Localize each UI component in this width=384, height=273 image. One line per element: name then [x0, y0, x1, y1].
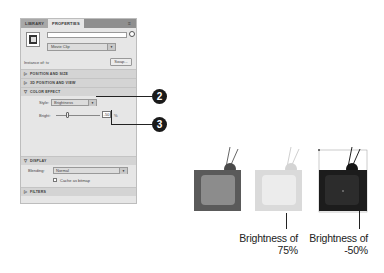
instance-of-label: Instance of: tv: [24, 60, 49, 65]
brightness-slider-track[interactable]: [56, 115, 100, 116]
instance-header: Movie Clip ▼: [21, 28, 136, 58]
callout-3-line-vertical: [111, 110, 112, 124]
blending-select[interactable]: Normal ▼: [53, 167, 128, 174]
chevron-down-icon: ▼: [107, 44, 115, 50]
tab-properties[interactable]: PROPERTIES: [48, 19, 84, 28]
percent-unit: %: [114, 113, 118, 118]
symbol-type-value: Movie Clip: [51, 44, 70, 49]
color-effect-body: Style: Brightness ▼ Bright: -50 %: [21, 96, 136, 156]
style-select[interactable]: Brightness ▼: [51, 99, 97, 106]
callout-2-line: [96, 96, 152, 97]
edit-symbol-icon[interactable]: [129, 31, 135, 37]
blending-value: Normal: [56, 168, 69, 173]
section-color-effect[interactable]: ▽COLOR EFFECT: [21, 87, 136, 96]
instance-of-row: Instance of: tv Swap...: [21, 58, 136, 69]
section-position-size[interactable]: ▷POSITION AND SIZE: [21, 69, 136, 78]
swap-button[interactable]: Swap...: [110, 58, 132, 66]
tv-brightness-minus-50-image: [314, 145, 374, 215]
style-label: Style:: [39, 100, 49, 105]
properties-panel: LIBRARY PROPERTIES ≡ Movie Clip ▼ Instan…: [20, 18, 137, 204]
instance-name-input[interactable]: [47, 32, 127, 38]
caption-line-2: -50%: [296, 244, 368, 256]
brightness-value-input[interactable]: -50: [102, 111, 111, 118]
chevron-down-icon: ▼: [119, 168, 127, 174]
brightness-slider-thumb[interactable]: [66, 112, 69, 118]
section-3d-position-view[interactable]: ▷3D POSITION AND VIEW: [21, 78, 136, 87]
cache-as-bitmap-checkbox[interactable]: [53, 178, 57, 182]
panel-menu-icon[interactable]: ≡: [128, 20, 134, 26]
section-label: COLOR EFFECT: [30, 90, 60, 94]
section-label: DISPLAY: [30, 159, 47, 163]
symbol-type-select[interactable]: Movie Clip ▼: [47, 43, 116, 51]
caption-75-pointer: [286, 213, 287, 229]
section-filters[interactable]: ▷FILTERS: [21, 187, 136, 196]
section-label: FILTERS: [30, 190, 46, 194]
section-display[interactable]: ▽DISPLAY: [21, 156, 136, 165]
caption-line-1: Brightness of: [226, 232, 298, 244]
tv-brightness-75-image: [253, 145, 313, 215]
callout-2-badge: 2: [152, 89, 167, 104]
caption-minus-50-pointer: [359, 211, 360, 229]
caption-line-2: 75%: [226, 244, 298, 256]
caption-brightness-75: Brightness of 75%: [226, 232, 298, 256]
display-body: Blending: Normal ▼ Cache as bitmap: [21, 165, 136, 187]
tab-library[interactable]: LIBRARY: [21, 19, 48, 28]
caption-brightness-minus-50: Brightness of -50%: [296, 232, 368, 256]
chevron-down-icon: ▼: [88, 100, 96, 106]
style-value: Brightness: [54, 100, 73, 105]
tv-original-image: [192, 145, 252, 215]
caption-line-1: Brightness of: [296, 232, 368, 244]
callout-3-line-horizontal: [111, 124, 152, 125]
symbol-icon-highlight: [31, 37, 36, 42]
panel-tabs: LIBRARY PROPERTIES ≡: [21, 19, 136, 28]
bright-label: Bright:: [39, 113, 51, 118]
callout-3-badge: 3: [152, 117, 167, 132]
blending-label: Blending:: [28, 168, 45, 173]
movie-clip-symbol-icon: [26, 32, 40, 47]
section-label: POSITION AND SIZE: [30, 72, 68, 76]
cache-as-bitmap-label: Cache as bitmap: [60, 178, 90, 183]
section-label: 3D POSITION AND VIEW: [30, 81, 76, 85]
